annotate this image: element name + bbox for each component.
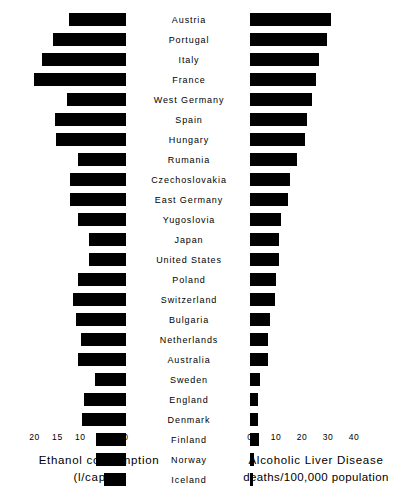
ethanol-bar [42, 53, 126, 66]
left-caption-line2: (l/capita) [4, 469, 194, 486]
liver-disease-bar [250, 353, 268, 366]
paired-bar-chart-figure: AustriaPortugalItalyFranceWest GermanySp… [0, 0, 410, 494]
ethanol-bar-track [30, 270, 126, 290]
liver-disease-bar [250, 173, 290, 186]
chart-row: Rumania [0, 150, 410, 170]
liver-disease-bar-track [250, 150, 402, 170]
liver-disease-bar-track [250, 110, 402, 130]
chart-row: Poland [0, 270, 410, 290]
country-label: Yugoslovia [132, 210, 246, 230]
liver-disease-bar-track [250, 350, 402, 370]
liver-disease-bar [250, 313, 270, 326]
country-label: Denmark [132, 410, 246, 430]
liver-disease-bar [250, 13, 331, 26]
liver-disease-bar [250, 113, 307, 126]
chart-row: Australia [0, 350, 410, 370]
ethanol-bar [82, 413, 126, 426]
ethanol-bar-track [30, 250, 126, 270]
country-label: Poland [132, 270, 246, 290]
country-label: Switzerland [132, 290, 246, 310]
country-label: Rumania [132, 150, 246, 170]
right-axis-tick: 20 [297, 430, 308, 444]
chart-row: United States [0, 250, 410, 270]
liver-disease-bar [250, 193, 288, 206]
ethanol-bar [78, 273, 126, 286]
liver-disease-bar-track [250, 10, 402, 30]
liver-disease-bar-track [250, 130, 402, 150]
left-caption-line1: Ethanol consumption [39, 454, 160, 466]
liver-disease-bar [250, 333, 268, 346]
liver-disease-bar [250, 213, 281, 226]
ethanol-bar [78, 213, 126, 226]
country-label: Austria [132, 10, 246, 30]
ethanol-bar [53, 33, 126, 46]
right-caption-line2: deaths/100,000 population [222, 469, 410, 486]
ethanol-bar [34, 73, 126, 86]
chart-row: Austria [0, 10, 410, 30]
ethanol-bar [89, 253, 126, 266]
ethanol-bar-track [30, 50, 126, 70]
right-axis-ticks: 010203040 [0, 430, 410, 444]
liver-disease-bar [250, 273, 276, 286]
liver-disease-bar [250, 153, 297, 166]
ethanol-bar-track [30, 110, 126, 130]
ethanol-bar [78, 353, 126, 366]
ethanol-bar-track [30, 70, 126, 90]
liver-disease-bar [250, 293, 275, 306]
country-label: Spain [132, 110, 246, 130]
liver-disease-bar-track [250, 70, 402, 90]
liver-disease-bar-track [250, 330, 402, 350]
liver-disease-bar-track [250, 390, 402, 410]
chart-row: Sweden [0, 370, 410, 390]
country-label: Bulgaria [132, 310, 246, 330]
liver-disease-bar [250, 53, 319, 66]
liver-disease-bar [250, 373, 260, 386]
country-label: Italy [132, 50, 246, 70]
liver-disease-bar [250, 253, 279, 266]
right-caption-line1: Alcoholic Liver Disease [249, 454, 384, 466]
liver-disease-bar-track [250, 370, 402, 390]
chart-row: Japan [0, 230, 410, 250]
country-label: West Germany [132, 90, 246, 110]
country-label: Netherlands [132, 330, 246, 350]
chart-row: England [0, 390, 410, 410]
liver-disease-bar-track [250, 30, 402, 50]
liver-disease-bar [250, 93, 312, 106]
country-label: Sweden [132, 370, 246, 390]
ethanol-bar-track [30, 370, 126, 390]
chart-row: Netherlands [0, 330, 410, 350]
ethanol-bar-track [30, 290, 126, 310]
chart-rows: AustriaPortugalItalyFranceWest GermanySp… [0, 10, 410, 490]
ethanol-bar [70, 193, 126, 206]
chart-row: Yugoslovia [0, 210, 410, 230]
ethanol-bar-track [30, 190, 126, 210]
ethanol-bar [95, 373, 126, 386]
country-label: Portugal [132, 30, 246, 50]
right-axis-tick: 0 [247, 430, 252, 444]
right-axis-tick: 40 [349, 430, 360, 444]
right-axis-tick: 30 [323, 430, 334, 444]
ethanol-bar [89, 233, 126, 246]
liver-disease-bar [250, 73, 316, 86]
ethanol-bar [81, 333, 126, 346]
liver-disease-bar-track [250, 50, 402, 70]
ethanol-bar [55, 113, 126, 126]
ethanol-bar-track [30, 390, 126, 410]
chart-row: Spain [0, 110, 410, 130]
liver-disease-bar-track [250, 90, 402, 110]
country-label: United States [132, 250, 246, 270]
ethanol-bar-track [30, 90, 126, 110]
liver-disease-bar-track [250, 410, 402, 430]
ethanol-bar [69, 13, 126, 26]
country-label: Australia [132, 350, 246, 370]
chart-row: Bulgaria [0, 310, 410, 330]
liver-disease-bar [250, 233, 279, 246]
liver-disease-bar-track [250, 170, 402, 190]
chart-row: Czechoslovakia [0, 170, 410, 190]
chart-row: Switzerland [0, 290, 410, 310]
ethanol-bar [73, 293, 126, 306]
chart-row: East Germany [0, 190, 410, 210]
liver-disease-bar-track [250, 190, 402, 210]
ethanol-bar-track [30, 170, 126, 190]
ethanol-bar-track [30, 130, 126, 150]
